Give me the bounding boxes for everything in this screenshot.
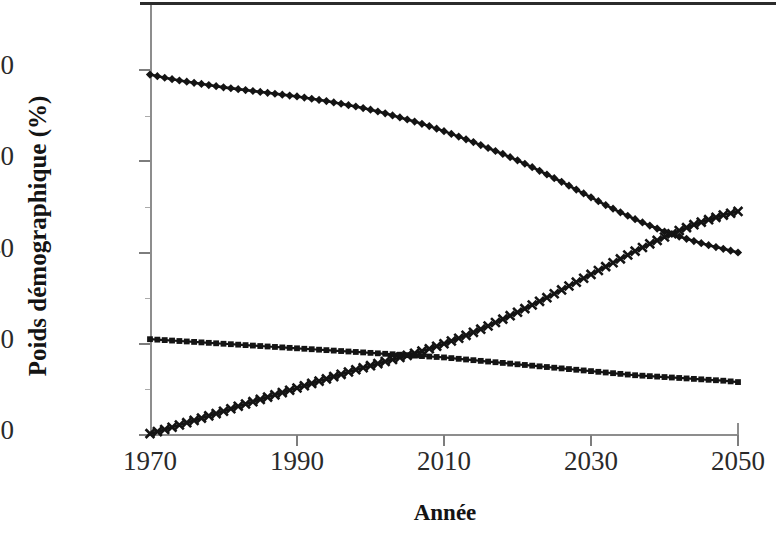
marker-square (471, 357, 477, 363)
marker-diamond (396, 113, 404, 121)
marker-square (382, 351, 388, 357)
marker-diamond (197, 80, 205, 88)
marker-diamond (241, 86, 249, 94)
marker-diamond (712, 243, 720, 251)
marker-diamond (697, 239, 705, 247)
marker-diamond (227, 84, 235, 92)
marker-square (191, 339, 197, 345)
marker-square (485, 359, 491, 365)
marker-diamond (425, 122, 433, 130)
marker-square (294, 345, 300, 351)
marker-diamond (264, 89, 272, 97)
marker-square (603, 370, 609, 376)
marker-square (662, 374, 668, 380)
marker-square (522, 362, 528, 368)
marker-square (537, 363, 543, 369)
marker-diamond (293, 92, 301, 100)
marker-diamond (682, 235, 690, 243)
marker-diamond (727, 247, 735, 255)
marker-square (478, 358, 484, 364)
marker-square (213, 340, 219, 346)
marker-square (368, 350, 374, 356)
y-tick-60 (139, 160, 150, 162)
marker-square (324, 347, 330, 353)
marker-square (235, 342, 241, 348)
marker-diamond (249, 87, 257, 95)
marker-square (559, 365, 565, 371)
marker-diamond (499, 150, 507, 158)
marker-square (301, 346, 307, 352)
marker-diamond (403, 115, 411, 123)
series-serie-croix (146, 207, 743, 438)
x-tick-label-2050: 2050 (678, 446, 776, 477)
marker-square (706, 377, 712, 383)
y-tick-20 (139, 343, 150, 345)
marker-square (397, 352, 403, 358)
marker-square (640, 373, 646, 379)
marker-diamond (388, 111, 396, 119)
marker-diamond (161, 74, 169, 82)
marker-diamond (418, 120, 426, 128)
marker-square (250, 343, 256, 349)
marker-diamond (330, 98, 338, 106)
marker-square (221, 341, 227, 347)
marker-square (426, 354, 432, 360)
marker-diamond (638, 218, 646, 226)
marker-diamond (411, 117, 419, 125)
marker-square (360, 350, 366, 356)
marker-diamond (690, 237, 698, 245)
marker-diamond (734, 248, 742, 256)
marker-square (184, 339, 190, 345)
marker-diamond (631, 215, 639, 223)
marker-diamond (374, 107, 382, 115)
marker-square (331, 348, 337, 354)
marker-diamond (234, 85, 242, 93)
marker-square (441, 355, 447, 361)
marker-square (177, 338, 183, 344)
marker-diamond (308, 95, 316, 103)
x-axis-title: Année (150, 500, 740, 526)
marker-diamond (359, 104, 367, 112)
marker-diamond (183, 78, 191, 86)
marker-square (448, 355, 454, 361)
y-tick-label-60: 60 (0, 143, 14, 170)
y-tick-label-40: 40 (0, 235, 14, 262)
marker-diamond (719, 245, 727, 253)
y-axis-title: Poids démographique (%) (24, 26, 52, 446)
marker-square (316, 347, 322, 353)
marker-square (419, 353, 425, 359)
marker-diamond (286, 91, 294, 99)
marker-square (162, 337, 168, 343)
x-tick-label-2010: 2010 (384, 446, 504, 477)
marker-square (735, 379, 741, 385)
marker-diamond (322, 97, 330, 105)
marker-square (676, 375, 682, 381)
marker-square (618, 371, 624, 377)
marker-diamond (491, 147, 499, 155)
marker-square (573, 367, 579, 373)
marker-square (228, 341, 234, 347)
marker-square (279, 345, 285, 351)
marker-diamond (337, 100, 345, 108)
marker-square (434, 354, 440, 360)
marker-diamond (175, 76, 183, 84)
marker-square (684, 376, 690, 382)
marker-square (588, 368, 594, 374)
marker-diamond (146, 70, 154, 78)
marker-square (206, 340, 212, 346)
marker-diamond (168, 75, 176, 83)
marker-square (243, 342, 249, 348)
x-tick-label-2030: 2030 (531, 446, 651, 477)
plot-area (150, 5, 738, 435)
y-tick-label-20: 20 (0, 326, 14, 353)
marker-diamond (469, 138, 477, 146)
marker-square (566, 366, 572, 372)
marker-diamond (646, 221, 654, 229)
y-tick-80 (139, 69, 150, 71)
marker-diamond (344, 101, 352, 109)
marker-diamond (219, 83, 227, 91)
marker-square (375, 350, 381, 356)
marker-square (309, 346, 315, 352)
marker-square (507, 361, 513, 367)
marker-square (257, 343, 263, 349)
